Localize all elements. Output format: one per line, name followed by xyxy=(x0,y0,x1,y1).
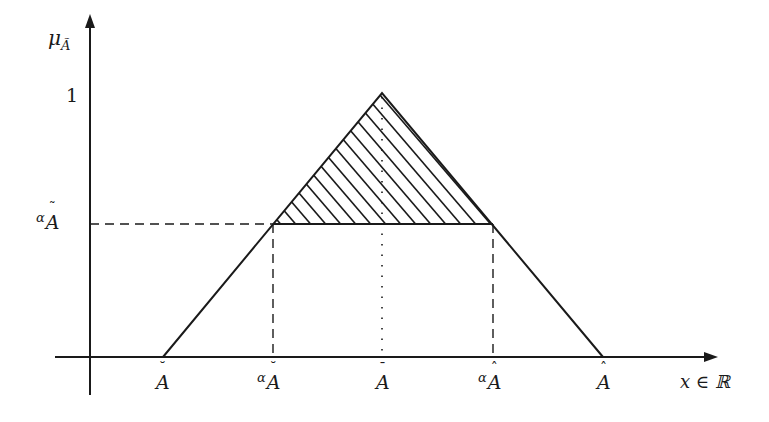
tick-one: 1 xyxy=(66,84,78,106)
y-axis-arrow-icon xyxy=(85,14,95,28)
x-axis-arrow-icon xyxy=(704,352,718,362)
x-tick-alpha-upper: αAˆ xyxy=(478,370,502,393)
y-axis-label: μÃ xyxy=(48,26,70,53)
alpha-cut-hatch xyxy=(110,60,545,270)
x-tick-alpha-lower: αA˘ xyxy=(257,370,281,393)
x-tick-upper-bound: Aˆ xyxy=(596,370,611,393)
x-tick-lower-bound: A˘ xyxy=(155,370,170,393)
fuzzy-number-diagram xyxy=(0,0,769,422)
x-axis-label: x ∈ ℝ xyxy=(680,371,730,392)
tick-alpha-level: αA˜ xyxy=(36,210,60,233)
x-tick-peak: A¯ xyxy=(375,370,390,393)
